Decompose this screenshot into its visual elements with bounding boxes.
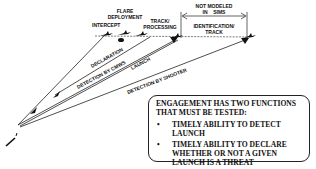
aircraft-icon <box>135 31 148 36</box>
aircraft-icon <box>100 31 113 36</box>
callout-item: • TIMELY ABILITY TO DECLARE WHETHER OR N… <box>156 141 303 167</box>
callout-list: • TIMELY ABILITY TO DETECT LAUNCH • TIME… <box>156 121 303 167</box>
callout-item: • TIMELY ABILITY TO DETECT LAUNCH <box>156 121 303 138</box>
intercept-label: INTERCEPT <box>92 22 120 28</box>
detection-shooter-label: DETECTION BY SHOOTER <box>126 67 188 95</box>
flare-icon <box>118 38 124 42</box>
bullet-icon: • <box>157 121 160 130</box>
aircraft-icon <box>243 33 256 38</box>
callout-title: ENGAGEMENT HAS TWO FUNCTIONS THAT MUST B… <box>156 100 303 117</box>
engagement-callout-box: ENGAGEMENT HAS TWO FUNCTIONS THAT MUST B… <box>148 95 310 162</box>
bullet-icon: • <box>157 141 160 150</box>
missile-icon <box>6 138 15 146</box>
arrowhead-icon <box>53 91 60 98</box>
arrowhead-icon <box>30 107 37 114</box>
track-id-label: TRACK <box>205 29 223 35</box>
launch-label: LAUNCH <box>130 55 152 70</box>
callout-item-text: TIMELY ABILITY TO DETECT LAUNCH <box>172 120 281 138</box>
deployment-label: DEPLOYMENT <box>108 14 143 20</box>
callout-item-text: TIMELY ABILITY TO DECLARE WHETHER OR NOT… <box>172 140 287 166</box>
processing-label: PROCESSING <box>143 24 176 30</box>
missile-icon <box>16 133 17 136</box>
in-sims-label: IN SIMS <box>203 9 226 15</box>
aircraft-icon <box>118 30 131 35</box>
